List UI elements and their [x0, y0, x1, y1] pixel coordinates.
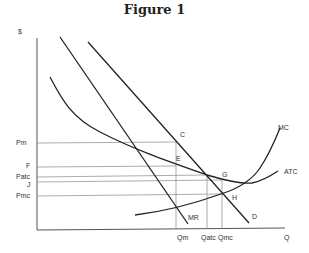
- label-qmc: Qmc: [218, 234, 233, 242]
- label-pm: Pm: [16, 139, 27, 146]
- label-pmc: Pmc: [16, 192, 31, 199]
- label-h: H: [232, 194, 237, 201]
- guide-f: [37, 166, 176, 167]
- guide-pmc: [37, 194, 222, 196]
- label-patc: Patc: [16, 173, 31, 180]
- label-e: E: [176, 155, 181, 162]
- guide-pm: [37, 142, 176, 143]
- guide-patc: [37, 175, 207, 177]
- mc-curve: [135, 128, 280, 215]
- label-atc: ATC: [284, 168, 297, 175]
- label-qatc: Qatc: [201, 234, 216, 242]
- label-j: J: [27, 181, 31, 188]
- label-mc: MC: [278, 124, 289, 131]
- mr-curve: [60, 37, 188, 224]
- x-axis: [37, 228, 285, 230]
- label-d: D: [252, 213, 257, 220]
- x-axis-label: Q: [284, 234, 290, 242]
- label-g: G: [222, 171, 227, 178]
- atc-curve: [50, 77, 278, 183]
- label-f: F: [26, 162, 30, 169]
- guide-j: [37, 180, 222, 182]
- label-qm: Qm: [177, 234, 188, 242]
- y-axis-label: $: [18, 28, 22, 35]
- label-c: C: [180, 131, 185, 138]
- economics-diagram: $ Q Pm F Patc J Pmc Qm Qatc Qmc MC ATC D…: [0, 0, 309, 253]
- label-mr: MR: [188, 214, 199, 221]
